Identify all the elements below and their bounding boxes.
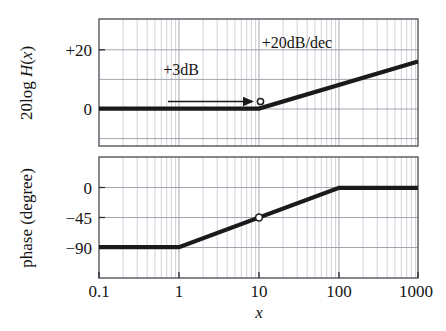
magnitude-ytick-plus20: +20: [65, 41, 92, 60]
xtick-10: 10: [251, 282, 268, 301]
three-db-annotation: +3dB: [163, 61, 199, 78]
phase-y-axis-label: phase (degree): [17, 168, 36, 268]
xtick-100: 100: [326, 282, 352, 301]
magnitude-ylabel-paren-close: ): [17, 46, 36, 52]
magnitude-ylabel-prefix: 20log: [17, 77, 36, 120]
xtick-1: 1: [175, 282, 184, 301]
slope-annotation: +20dB/dec: [262, 34, 332, 51]
x-axis-label: x: [254, 303, 263, 322]
phase-ylabel-text: phase (degree): [17, 168, 36, 268]
phase-ytick-minus45: −45: [65, 209, 92, 228]
phase-45-marker-icon: [256, 214, 263, 221]
svg-text:20log H(x): 20log H(x): [17, 46, 36, 120]
bode-plot-svg: +3dB +20dB/dec +20 0 20log H(x): [0, 0, 446, 331]
xtick-1000: 1000: [399, 282, 433, 301]
xtick-0p1: 0.1: [88, 282, 109, 301]
phase-ytick-zero: 0: [84, 179, 93, 198]
magnitude-y-axis-label: 20log H(x): [17, 46, 36, 120]
phase-ytick-minus90: −90: [65, 239, 92, 258]
magnitude-ytick-zero: 0: [84, 100, 93, 119]
corner-marker-icon: [257, 98, 263, 104]
bode-plot-figure: +3dB +20dB/dec +20 0 20log H(x): [0, 0, 446, 331]
